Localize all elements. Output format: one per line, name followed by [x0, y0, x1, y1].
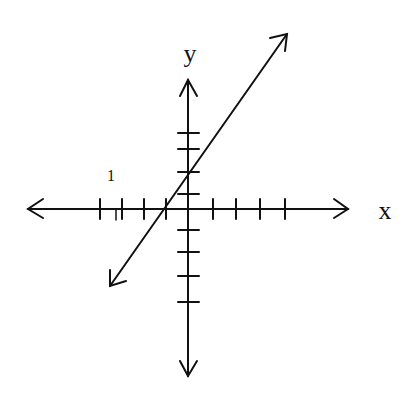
y-axis-label: y [184, 39, 197, 68]
annotation-label: 1 [107, 167, 115, 184]
coordinate-plane: y x 1 [0, 0, 420, 400]
x-axis-label: x [379, 196, 392, 225]
plotted-line [110, 34, 287, 286]
